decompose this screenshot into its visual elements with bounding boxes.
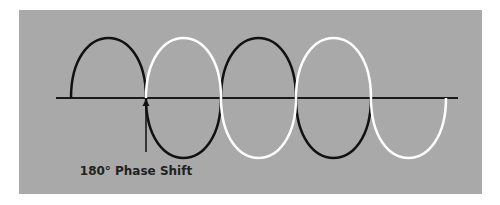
phase-shift-label: 180° Phase Shift: [80, 164, 193, 178]
phase-shift-diagram: 180° Phase Shift: [0, 0, 500, 205]
